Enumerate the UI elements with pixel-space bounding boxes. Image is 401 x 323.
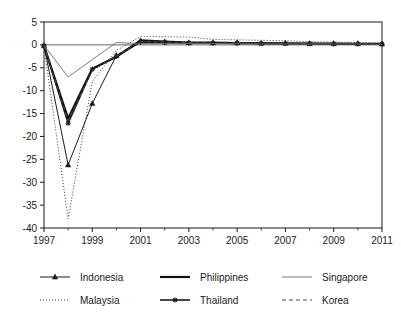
x-axis-tick-label: 2011 [371,235,393,246]
marker-triangle [90,101,95,106]
legend-entry-korea[interactable]: Korea [282,295,349,306]
marker-star [66,121,71,126]
x-axis-tick-label: 2003 [178,235,201,246]
legend-label: Philippines [200,272,248,283]
legend-label: Malaysia [80,295,120,306]
legend-label: Korea [322,295,349,306]
x-axis-tick-label: 2005 [226,235,249,246]
legend-label: Singapore [322,272,368,283]
series-line-malaysia [44,37,382,219]
y-axis-tick-label: -30 [23,177,38,188]
y-axis-tick-label: 5 [31,17,37,28]
legend-entry-malaysia[interactable]: Malaysia [40,295,120,306]
y-axis-tick-label: -35 [23,200,38,211]
series-line-philippines [44,40,382,118]
y-axis-tick-label: -10 [23,85,38,96]
line-chart: 50-5-10-15-20-25-30-35-40199719992001200… [0,0,401,323]
series-line-indonesia [44,41,382,165]
x-axis-tick-label: 2009 [323,235,346,246]
x-axis-tick-label: 2007 [274,235,297,246]
y-axis-tick-label: -25 [23,154,38,165]
y-axis-tick-label: -15 [23,108,38,119]
y-axis-tick-label: -5 [28,62,37,73]
chart-figure: 50-5-10-15-20-25-30-35-40199719992001200… [0,0,401,323]
series-line-korea [44,42,382,121]
series-markers-indonesia [41,38,384,167]
legend-entry-indonesia[interactable]: Indonesia [40,272,124,283]
legend-entry-philippines[interactable]: Philippines [160,272,248,283]
y-axis-tick-label: -20 [23,131,38,142]
series-line-singapore [44,43,382,77]
legend-entry-thailand[interactable]: Thailand [160,295,238,306]
series-markers-thailand [41,40,384,126]
x-axis-tick-label: 1999 [81,235,104,246]
series-line-thailand [44,42,382,123]
y-axis-tick-label: -40 [23,223,38,234]
y-axis-tick-label: 0 [31,39,37,50]
legend-label: Thailand [200,295,238,306]
legend-entry-singapore[interactable]: Singapore [282,272,368,283]
x-axis-tick-label: 1997 [33,235,56,246]
legend-label: Indonesia [80,272,124,283]
marker-star [172,297,177,302]
x-axis-tick-label: 2001 [129,235,152,246]
plot-frame [44,22,382,228]
marker-triangle [65,162,70,167]
